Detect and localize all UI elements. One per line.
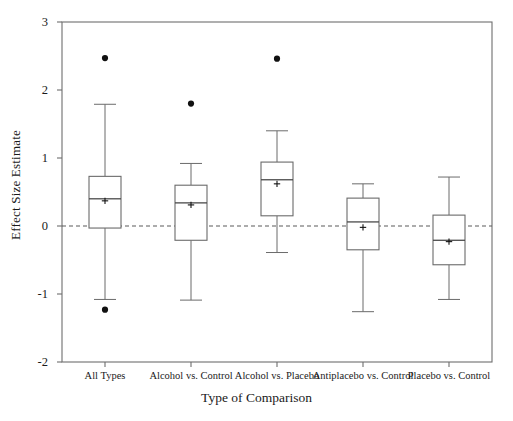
x-axis-label: Type of Comparison (0, 390, 513, 406)
outlier-point (102, 55, 108, 61)
outlier-point (102, 307, 108, 313)
boxplot-figure: Effect Size Estimate -2-10123 All TypesA… (0, 0, 513, 421)
box-4 (347, 198, 379, 250)
x-category-label-1: All Types (85, 370, 126, 381)
x-category-label-5: Placebo vs. Control (408, 370, 491, 381)
x-category-label-4: Antiplacebo vs. Control (313, 370, 414, 381)
outlier-point (188, 101, 194, 107)
box-3 (261, 162, 293, 216)
box-2 (175, 185, 207, 240)
x-category-label-3: Alcohol vs. Placebo (235, 370, 319, 381)
x-category-label-2: Alcohol vs. Control (149, 370, 232, 381)
outlier-point (274, 56, 280, 62)
plot-area (0, 0, 513, 421)
